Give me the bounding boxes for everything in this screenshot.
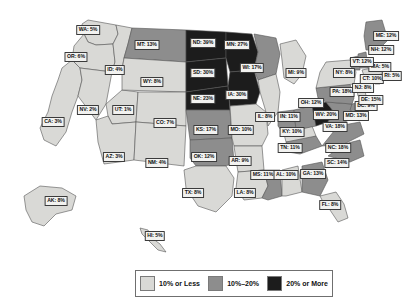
state-label-ms: MS: 11% (250, 170, 276, 180)
state-label-az: AZ: 3% (103, 152, 125, 162)
state-label-wv: WV: 20% (313, 110, 339, 120)
state-label-tx: TX: 8% (182, 188, 204, 198)
state-shape-wi[interactable] (254, 34, 280, 80)
state-label-hi: HI: 5% (145, 231, 165, 241)
state-label-nj: NJ: 8% (352, 83, 374, 93)
state-label-ct: CT: 10% (360, 74, 384, 84)
state-label-nd: ND: 39% (190, 38, 216, 48)
state-label-wy: WY: 8% (140, 77, 163, 87)
legend-label-high: 20% or More (286, 280, 328, 287)
state-label-nc: NC: 18% (325, 143, 351, 153)
state-label-sc: SC: 14% (324, 158, 349, 168)
state-label-ok: OK: 12% (191, 152, 217, 162)
state-label-ar: AR: 9% (229, 156, 252, 166)
state-label-wi: WI: 17% (240, 63, 264, 73)
state-shape-ca[interactable] (40, 60, 82, 146)
state-label-ky: KY: 10% (280, 127, 305, 137)
state-label-me: ME: 12% (373, 31, 399, 41)
state-label-nh: NH: 12% (368, 45, 394, 55)
state-shape-ak[interactable] (24, 186, 76, 226)
map-legend: 10% or Less 10%–20% 20% or More (135, 270, 333, 297)
state-shape-ia[interactable] (228, 70, 260, 106)
state-label-nv: NV: 2% (77, 105, 99, 115)
state-label-wa: WA: 5% (76, 25, 100, 35)
legend-item-low: 10% or Less (140, 276, 200, 291)
state-label-fl: FL: 8% (319, 200, 341, 210)
legend-swatch-high (267, 276, 282, 291)
state-label-ut: UT: 1% (112, 105, 134, 115)
state-label-mi: MI: 9% (285, 68, 306, 78)
state-label-la: LA: 8% (234, 188, 256, 198)
state-label-tn: TN: 11% (278, 143, 303, 153)
legend-item-mid: 10%–20% (208, 276, 259, 291)
state-label-in: IN: 11% (278, 112, 301, 122)
legend-item-high: 20% or More (267, 276, 328, 291)
state-label-ca: CA: 3% (42, 117, 65, 127)
state-label-or: OR: 6% (64, 52, 87, 62)
state-label-mo: MO: 10% (228, 125, 254, 135)
state-label-nm: NM: 4% (145, 158, 168, 168)
state-label-co: CO: 7% (153, 118, 176, 128)
state-label-id: ID: 4% (105, 65, 125, 75)
state-label-ga: GA: 13% (300, 169, 326, 179)
state-label-va: VA: 18% (323, 122, 348, 132)
state-label-ne: NE: 23% (190, 94, 215, 104)
legend-label-mid: 10%–20% (227, 280, 259, 287)
state-label-ny: NY: 8% (333, 68, 355, 78)
state-label-ri: RI: 5% (382, 71, 402, 81)
legend-swatch-mid (208, 276, 223, 291)
state-label-mt: MT: 13% (135, 40, 160, 50)
state-label-ak: AK: 8% (45, 196, 68, 206)
state-label-de: DE: 15% (358, 95, 383, 105)
state-label-ks: KS: 17% (193, 125, 218, 135)
legend-swatch-low (140, 276, 155, 291)
state-label-vt: VT: 12% (350, 57, 374, 67)
state-label-ia: IA: 30% (225, 90, 248, 100)
state-label-sd: SD: 30% (190, 68, 215, 78)
state-label-oh: OH: 12% (298, 98, 324, 108)
legend-label-low: 10% or Less (159, 280, 200, 287)
state-label-md: MD: 13% (343, 111, 369, 121)
choropleth-map-figure: WA: 5%OR: 6%CA: 3%ID: 4%NV: 2%UT: 1%AZ: … (0, 0, 420, 305)
state-label-il: IL: 8% (255, 112, 275, 122)
state-label-mn: MN: 27% (224, 40, 250, 50)
state-label-al: AL: 10% (274, 170, 299, 180)
state-label-pa: PA: 18% (330, 87, 355, 97)
